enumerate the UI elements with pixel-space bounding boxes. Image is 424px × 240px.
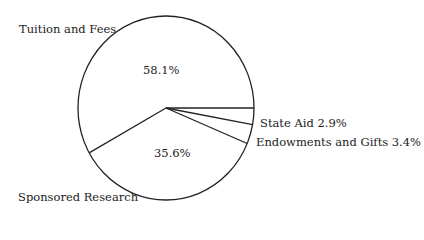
- label-sponsored-pct: 35.6%: [154, 146, 191, 160]
- label-endowments: Endowments and Gifts 3.4%: [256, 135, 421, 149]
- label-state-aid: State Aid 2.9%: [260, 116, 347, 130]
- label-tuition: Tuition and Fees: [19, 22, 116, 36]
- label-sponsored: Sponsored Research: [18, 190, 138, 204]
- label-tuition-pct: 58.1%: [143, 63, 180, 77]
